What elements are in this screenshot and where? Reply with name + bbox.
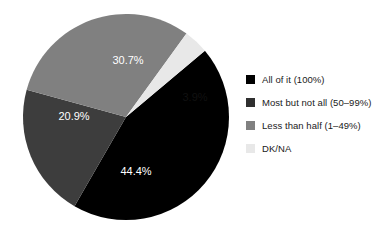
pie-slice-data-label: 3.9%	[182, 91, 207, 103]
legend-swatch-icon	[246, 75, 255, 84]
legend-swatch-icon	[246, 121, 255, 130]
legend-item-all-of-it[interactable]: All of it (100%)	[246, 68, 378, 90]
pie-chart-figure: 44.4%20.9%30.7%3.9% All of it (100%) Mos…	[0, 0, 378, 240]
pie-svg: 44.4%20.9%30.7%3.9%	[0, 0, 240, 240]
legend-item-dk-na[interactable]: DK/NA	[246, 137, 378, 159]
legend-item-label: All of it (100%)	[262, 74, 325, 85]
pie-slice-data-label: 20.9%	[58, 110, 89, 122]
pie-slice-data-label: 30.7%	[112, 54, 143, 66]
legend-item-label: Less than half (1–49%)	[262, 120, 361, 131]
legend-item-label: DK/NA	[262, 143, 291, 154]
legend-swatch-icon	[246, 98, 255, 107]
legend-item-label: Most but not all (50–99%)	[262, 97, 372, 108]
pie-slice-group	[23, 14, 229, 220]
legend-item-most-but-not-all[interactable]: Most but not all (50–99%)	[246, 91, 378, 113]
legend-swatch-icon	[246, 144, 255, 153]
pie-plot-area: 44.4%20.9%30.7%3.9%	[0, 0, 240, 240]
pie-slice-data-label: 44.4%	[120, 165, 151, 177]
legend-item-less-than-half[interactable]: Less than half (1–49%)	[246, 114, 378, 136]
chart-legend: All of it (100%) Most but not all (50–99…	[246, 68, 378, 160]
